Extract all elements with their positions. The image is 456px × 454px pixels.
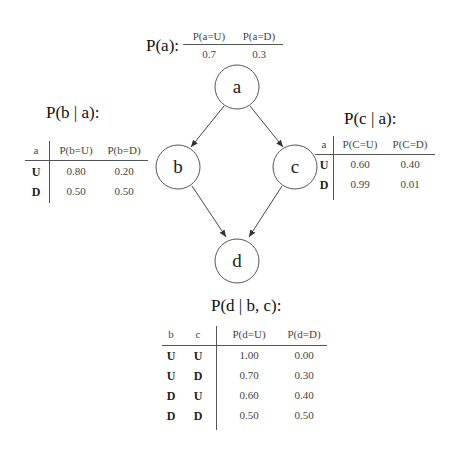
cpt-c-title: P(c | a): bbox=[344, 109, 397, 129]
node-d: d bbox=[215, 239, 259, 283]
node-d-label: d bbox=[232, 250, 242, 271]
cpt-d-header-b: b bbox=[164, 328, 178, 340]
node-b-label: b bbox=[173, 156, 183, 177]
edge-a-b bbox=[191, 106, 224, 147]
cpt-d-header-c: c bbox=[191, 328, 205, 340]
node-a: a bbox=[215, 65, 259, 109]
cpt-d-hdivider bbox=[162, 345, 327, 346]
cpt-d-title: P(d | b, c): bbox=[211, 296, 281, 316]
cpt-b-header-a: a bbox=[28, 144, 44, 156]
bayes-network-graph: a b c d bbox=[0, 0, 456, 454]
cpt-d-vdivider bbox=[216, 326, 217, 430]
cpt-d-header-u: P(d=U) bbox=[226, 328, 272, 340]
cpt-a-divider bbox=[183, 44, 283, 45]
cpt-a-value-d: 0.3 bbox=[236, 48, 282, 60]
cpt-a-title: P(a): bbox=[146, 36, 179, 56]
cpt-d-header-d: P(d=D) bbox=[281, 328, 327, 340]
node-b: b bbox=[156, 145, 200, 189]
cpt-a-header-u: P(a=U) bbox=[186, 30, 232, 42]
cpt-b-hdivider bbox=[25, 160, 148, 161]
cpt-c-header-d: P(C=D) bbox=[387, 138, 433, 150]
cpt-b-header-u: P(b=U) bbox=[54, 144, 98, 156]
cpt-a-value-u: 0.7 bbox=[186, 48, 232, 60]
cpt-a-header-d: P(a=D) bbox=[236, 30, 282, 42]
node-c: c bbox=[273, 145, 317, 189]
cpt-c-vdivider bbox=[333, 136, 334, 200]
cpt-c-header-a: a bbox=[317, 138, 331, 150]
cpt-b-title: P(b | a): bbox=[46, 103, 99, 123]
edge-a-c bbox=[250, 106, 283, 147]
cpt-b-vdivider bbox=[49, 141, 50, 203]
cpt-c-header-u: P(C=U) bbox=[337, 138, 383, 150]
cpt-b-header-d: P(b=D) bbox=[102, 144, 146, 156]
node-c-label: c bbox=[291, 156, 299, 177]
node-a-label: a bbox=[233, 76, 242, 97]
edge-c-d bbox=[249, 186, 282, 237]
edge-b-d bbox=[192, 186, 226, 237]
